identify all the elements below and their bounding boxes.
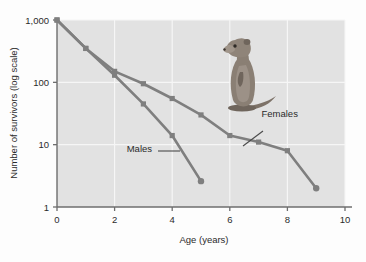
y-tick-label: 100	[33, 77, 49, 88]
x-tick-label: 10	[340, 214, 351, 225]
x-axis-tick-labels: 0246810	[54, 214, 350, 225]
x-tick-label: 0	[54, 214, 59, 225]
y-axis-title: Number of survivors (log scale)	[8, 47, 19, 178]
x-tick-label: 2	[112, 214, 117, 225]
y-axis-tick-labels: 1101001,000	[25, 15, 49, 213]
y-tick-label: 10	[38, 139, 49, 150]
y-tick-label: 1	[44, 202, 49, 213]
x-tick-label: 6	[227, 214, 232, 225]
survivorship-curve-figure: 1101001,000 0246810 Females Males Age (y…	[0, 0, 366, 262]
chart-svg: 1101001,000 0246810 Females Males Age (y…	[0, 0, 366, 262]
x-tick-label: 8	[285, 214, 290, 225]
series-label-females: Females	[261, 108, 298, 119]
series-label-males: Males	[127, 143, 153, 154]
x-tick-label: 4	[170, 214, 175, 225]
y-tick-label: 1,000	[25, 15, 49, 26]
x-axis-title: Age (years)	[179, 234, 228, 245]
